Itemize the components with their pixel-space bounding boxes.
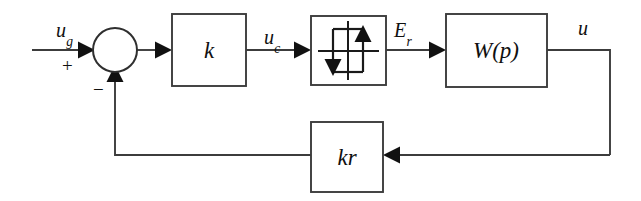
signal-label-input-sub: g — [66, 34, 73, 49]
diagram-canvas — [0, 0, 641, 201]
signal-label-control-sub: c — [274, 41, 280, 56]
block-feedback-kr-sub: r — [348, 145, 357, 170]
wire-plant-output — [547, 50, 610, 155]
block-diagram: k W(p) kr ug uc Er u + − — [0, 0, 641, 201]
wire-feedback-to-kr — [383, 147, 610, 164]
block-gain-k-label: k — [204, 39, 214, 62]
block-plant-w-label: W(p) — [473, 39, 519, 62]
summing-junction[interactable] — [93, 28, 137, 72]
signal-label-plant-output: u — [578, 18, 588, 38]
signal-label-relay-output: Er — [394, 20, 412, 45]
signal-label-input: ug — [56, 20, 73, 45]
block-feedback-kr-label: kr — [337, 146, 356, 169]
signal-label-relay-output-sub: r — [406, 34, 411, 49]
signal-label-control: uc — [264, 27, 280, 52]
minus-sign: − — [93, 80, 104, 99]
wire-sum-to-gain — [137, 42, 172, 59]
block-plant-w-sub: (p) — [492, 38, 519, 63]
plus-sign: + — [62, 56, 73, 75]
